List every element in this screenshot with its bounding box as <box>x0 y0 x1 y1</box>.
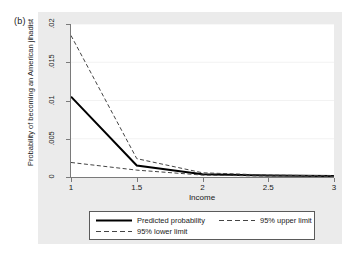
x-tick-mark <box>203 178 204 182</box>
y-tick-label: .02 <box>47 11 56 37</box>
x-tick-label: 1.5 <box>125 183 149 192</box>
gridlines-group <box>71 24 334 139</box>
legend-row-bottom: 95% lower limit <box>96 226 308 237</box>
y-tick-mark <box>66 101 70 102</box>
x-axis-title: Income <box>70 193 334 202</box>
y-tick-label: .015 <box>47 49 56 75</box>
plot-area <box>71 24 334 177</box>
x-tick-mark <box>137 178 138 182</box>
legend-swatch-solid-icon <box>96 217 132 224</box>
legend-label-upper-limit: 95% upper limit <box>260 216 312 225</box>
panel-letter-label: (b) <box>14 16 26 26</box>
x-tick-mark <box>71 178 72 182</box>
x-tick-mark <box>268 178 269 182</box>
legend-entry-lower-limit: 95% lower limit <box>96 227 187 236</box>
x-tick-label: 3 <box>322 183 346 192</box>
chart-legend: Predicted probability 95% upper limit 95… <box>89 211 315 240</box>
y-tick-mark <box>66 139 70 140</box>
y-tick-label: .005 <box>47 125 56 151</box>
y-tick-label: .01 <box>47 87 56 113</box>
x-tick-label: 2.5 <box>256 183 280 192</box>
y-axis-line <box>70 24 71 178</box>
y-tick-label: 0 <box>47 164 56 190</box>
legend-swatch-dashed-upper-icon <box>219 217 255 224</box>
chart-canvas <box>71 24 334 177</box>
legend-label-lower-limit: 95% lower limit <box>137 227 187 236</box>
legend-swatch-dashed-lower-icon <box>96 228 132 235</box>
legend-row-top: Predicted probability 95% upper limit <box>96 215 308 226</box>
x-tick-label: 2 <box>191 183 215 192</box>
y-axis-title: Probability of becoming an American jiha… <box>26 18 35 168</box>
x-tick-label: 1 <box>59 183 83 192</box>
figure-panel-b: (b) 0.005.01.015.02 11.522.53 Probabilit… <box>0 0 350 257</box>
series-line-predicted-probability <box>71 97 334 176</box>
legend-label-predicted-probability: Predicted probability <box>137 216 205 225</box>
legend-entry-upper-limit: 95% upper limit <box>219 216 312 225</box>
y-tick-mark <box>66 177 70 178</box>
data-series-group <box>71 35 334 176</box>
series-line-95-upper-limit <box>71 35 334 175</box>
legend-entry-predicted-probability: Predicted probability <box>96 216 205 225</box>
y-tick-mark <box>66 62 70 63</box>
y-tick-mark <box>66 24 70 25</box>
x-tick-mark <box>334 178 335 182</box>
